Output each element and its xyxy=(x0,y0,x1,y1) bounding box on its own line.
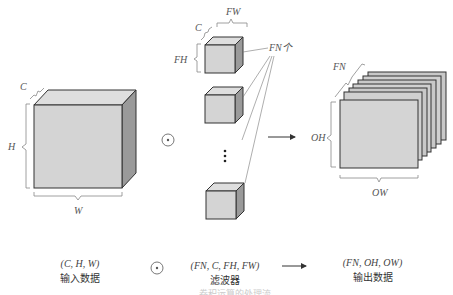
filter-cube-2 xyxy=(205,87,243,123)
filter-width-brace xyxy=(217,19,247,27)
figure-caption-partial: 卷积运算的处理流 xyxy=(150,287,320,295)
filter-cube-n xyxy=(206,183,244,219)
filter-count-label: FN个 xyxy=(268,42,293,53)
caption-output-shape: (FN, OH, OW) xyxy=(330,257,415,268)
filter-channel-label: C xyxy=(195,22,202,33)
caption-filter-name: 滤波器 xyxy=(180,272,270,287)
output-width-brace xyxy=(340,175,418,182)
output-height-brace xyxy=(327,102,336,167)
input-height-label: H xyxy=(7,141,16,152)
output-width-label: OW xyxy=(372,187,389,198)
filter-cube-1 xyxy=(205,37,243,73)
input-width-brace xyxy=(34,192,122,200)
filter-height-label: FH xyxy=(173,54,188,65)
input-width-label: W xyxy=(74,205,84,216)
input-channel-label: C xyxy=(20,81,27,92)
caption-input-name: 输入数据 xyxy=(40,270,120,285)
caption-filter: (FN, C, FH, FW) 滤波器 xyxy=(180,260,270,287)
convolution-operator-icon xyxy=(162,134,174,146)
input-data-cube xyxy=(34,90,136,188)
filter-channel-brace xyxy=(201,27,212,40)
caption-input-shape: (C, H, W) xyxy=(40,258,120,269)
caption-operator-icon xyxy=(151,262,163,274)
output-height-label: OH xyxy=(311,132,326,143)
output-channel-label: FN xyxy=(332,61,347,72)
caption-input: (C, H, W) 输入数据 xyxy=(40,258,120,285)
caption-filter-shape: (FN, C, FH, FW) xyxy=(180,260,270,271)
filter-ellipsis-icon xyxy=(224,150,227,163)
filter-width-label: FW xyxy=(225,6,242,17)
filter-count-leader-lines xyxy=(242,48,274,183)
convolution-diagram: C H W FW C FH FN个 xyxy=(0,0,453,295)
caption-output: (FN, OH, OW) 输出数据 xyxy=(330,257,415,284)
input-height-brace xyxy=(22,104,30,188)
filter-height-brace xyxy=(194,44,201,72)
caption-output-name: 输出数据 xyxy=(330,269,415,284)
output-data-stack xyxy=(340,72,446,168)
